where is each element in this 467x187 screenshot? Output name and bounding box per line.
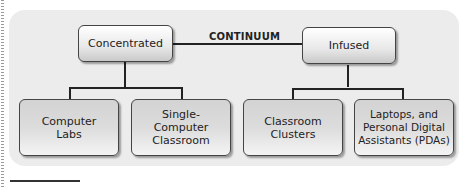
branch-left-1 bbox=[69, 87, 71, 99]
infused-branch bbox=[292, 88, 403, 90]
node-laptops-pdas-label: Laptops, and Personal Digital Assistants… bbox=[358, 108, 450, 147]
caption-bar bbox=[10, 180, 80, 182]
node-computer-labs-label: Computer Labs bbox=[39, 115, 99, 141]
continuum-line bbox=[172, 43, 302, 45]
branch-left-2 bbox=[181, 87, 183, 99]
infused-stem bbox=[347, 65, 349, 87]
node-concentrated-label: Concentrated bbox=[88, 37, 163, 50]
node-infused: Infused bbox=[302, 27, 396, 64]
concentrated-branch bbox=[69, 87, 182, 89]
node-classroom-clusters-label: Classroom Clusters bbox=[258, 115, 328, 141]
node-classroom-clusters: Classroom Clusters bbox=[243, 99, 343, 156]
node-laptops-pdas: Laptops, and Personal Digital Assistants… bbox=[354, 99, 454, 156]
node-infused-label: Infused bbox=[329, 39, 370, 52]
node-concentrated: Concentrated bbox=[78, 25, 173, 62]
node-single-computer-classroom-label: Single-Computer Classroom bbox=[148, 108, 214, 147]
node-computer-labs: Computer Labs bbox=[19, 99, 119, 156]
continuum-label: CONTINUUM bbox=[209, 31, 280, 42]
node-single-computer-classroom: Single-Computer Classroom bbox=[131, 99, 231, 156]
dotted-margin bbox=[1, 0, 4, 187]
concentrated-stem bbox=[124, 62, 126, 87]
